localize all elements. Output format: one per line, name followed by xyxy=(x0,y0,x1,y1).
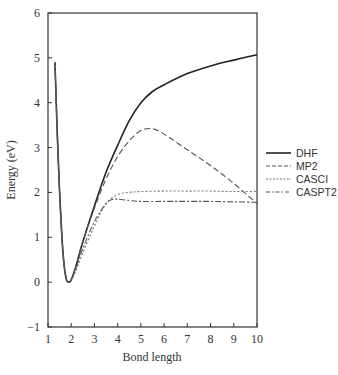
y-tick-label: 1 xyxy=(34,230,40,244)
energy-vs-bond-length-chart: 12345678910 −10123456 Bond length Energy… xyxy=(0,0,338,375)
legend-label-mp2: MP2 xyxy=(296,160,318,172)
y-tick-label: 6 xyxy=(34,6,40,20)
series-line-dhf xyxy=(55,55,257,282)
x-tick-label: 7 xyxy=(184,332,190,346)
series-lines xyxy=(55,55,257,282)
x-tick-label: 2 xyxy=(68,332,74,346)
plot-area xyxy=(48,13,257,327)
y-tick-label: 3 xyxy=(34,141,40,155)
x-axis-title: Bond length xyxy=(123,350,182,364)
y-tick-label: 4 xyxy=(34,96,40,110)
y-tick-label: 2 xyxy=(34,185,40,199)
series-line-mp2 xyxy=(55,62,257,282)
x-tick-label: 5 xyxy=(138,332,144,346)
y-axis-title: Energy (eV) xyxy=(4,140,18,199)
y-tick-label: 5 xyxy=(34,51,40,65)
x-tick-label: 4 xyxy=(115,332,121,346)
legend: DHFMP2CASCICASPT2 xyxy=(266,147,337,198)
series-line-casci xyxy=(55,62,257,282)
x-tick-label: 9 xyxy=(231,332,237,346)
x-tick-label: 1 xyxy=(45,332,51,346)
legend-label-dhf: DHF xyxy=(296,147,318,159)
y-tick-label: −1 xyxy=(27,320,40,334)
series-line-caspt2 xyxy=(55,62,257,282)
x-tick-label: 6 xyxy=(161,332,167,346)
x-tick-label: 3 xyxy=(91,332,97,346)
legend-label-casci: CASCI xyxy=(296,173,328,185)
legend-label-caspt2: CASPT2 xyxy=(296,186,337,198)
x-tick-label: 8 xyxy=(208,332,214,346)
y-tick-label: 0 xyxy=(34,275,40,289)
x-tick-label: 10 xyxy=(251,332,263,346)
